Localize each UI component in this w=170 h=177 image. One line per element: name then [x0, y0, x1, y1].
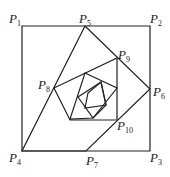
label-p3: P3	[150, 151, 162, 167]
square-6	[85, 82, 106, 108]
label-p5: P5	[79, 12, 91, 28]
label-p6: P6	[153, 85, 165, 101]
label-p8: P8	[38, 78, 50, 94]
square-4	[70, 73, 117, 119]
square-3	[54, 58, 117, 120]
label-p2: P2	[150, 12, 162, 28]
label-p10: P10	[117, 119, 133, 135]
label-p1: P1	[9, 12, 21, 28]
label-p9: P9	[118, 48, 130, 64]
label-p4: P4	[9, 151, 21, 167]
geometry-diagram: P1 P5 P2 P9 P8 P6 P10 P4 P7 P3	[0, 0, 170, 177]
label-p7: P7	[86, 154, 98, 170]
